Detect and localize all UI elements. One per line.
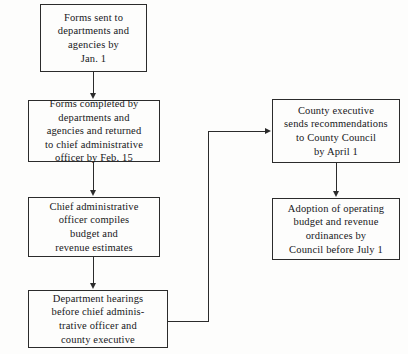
node-forms-sent-label: Forms sent to departments and agencies b… [58,11,129,66]
connector-hearings-to-executive-arrowhead [265,128,271,134]
node-department-hearings-label: Department hearings before chief adminis… [52,292,145,347]
node-forms-completed-label: Forms completed by departments and agenc… [45,97,143,165]
node-officer-compiles: Chief administrative officer compiles bu… [28,197,160,257]
node-executive-recommendations: County executive sends recommendations t… [272,99,400,163]
flowchart-canvas: Forms sent to departments and agencies b… [0,0,408,354]
connector-hearings-to-executive-top-segment [208,131,266,132]
connector-hearings-to-executive-vertical-segment [208,131,209,322]
connector-executive-to-adoption-line [336,163,337,192]
connector-executive-to-adoption-arrowhead [333,191,339,197]
connector-forms-completed-to-officer-compiles-line [93,162,94,191]
connector-hearings-to-executive-bottom-segment [168,321,209,322]
node-forms-sent: Forms sent to departments and agencies b… [40,4,147,72]
node-executive-recommendations-label: County executive sends recommendations t… [284,104,388,159]
connector-forms-sent-to-forms-completed-line [93,72,94,94]
node-adoption-of-budget: Adoption of operating budget and revenue… [272,198,400,260]
node-officer-compiles-label: Chief administrative officer compiles bu… [49,200,138,255]
connector-forms-completed-to-officer-compiles-arrowhead [90,190,96,196]
connector-officer-compiles-to-department-hearings-arrowhead [90,283,96,289]
connector-officer-compiles-to-department-hearings-line [93,257,94,284]
node-adoption-of-budget-label: Adoption of operating budget and revenue… [288,202,384,257]
node-department-hearings: Department hearings before chief adminis… [28,290,168,348]
node-forms-completed: Forms completed by departments and agenc… [28,100,160,162]
